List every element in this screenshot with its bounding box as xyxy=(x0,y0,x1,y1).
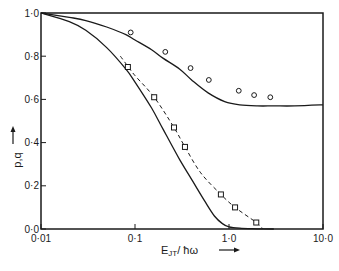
square-marker-icon xyxy=(152,95,157,100)
x-tick-label: 10·0 xyxy=(313,233,333,244)
y-axis-ticks: 0·00·20·40·60·81·0 xyxy=(25,8,46,235)
circle-marker-icon xyxy=(252,93,257,98)
markers-layer xyxy=(125,30,272,225)
square-marker-icon xyxy=(182,144,187,149)
x-tick-label: 1·0 xyxy=(222,233,237,244)
series-layer xyxy=(41,13,323,229)
circle-marker-icon xyxy=(268,95,273,100)
circle-marker-icon xyxy=(236,88,241,93)
x-tick-label: 0·1 xyxy=(128,233,143,244)
square-marker-icon xyxy=(233,205,238,210)
y-axis-arrow-icon xyxy=(11,126,16,144)
x-axis-ticks: 0·010·11·010·0 xyxy=(31,224,333,244)
x-tick-label: 0·01 xyxy=(31,233,51,244)
x-axis-label-rest: / ħω xyxy=(177,244,198,256)
y-axis-label: p,q xyxy=(11,152,23,167)
x-axis-label-main: E xyxy=(161,244,168,256)
square-marker-icon xyxy=(254,220,259,225)
plot-frame xyxy=(41,13,323,229)
solid-curve xyxy=(41,13,323,106)
y-tick-label: 0·4 xyxy=(25,137,40,148)
solid-curve xyxy=(41,13,274,229)
svg-text:EJT/ ħω: EJT/ ħω xyxy=(161,244,198,258)
y-tick-label: 1·0 xyxy=(25,8,40,19)
x-axis-label-sub: JT xyxy=(168,249,177,258)
square-marker-icon xyxy=(125,65,130,70)
x-axis-title: EJT/ ħω xyxy=(161,244,198,258)
square-marker-icon xyxy=(218,192,223,197)
circle-marker-icon xyxy=(188,66,193,71)
dashed-curve xyxy=(120,56,263,229)
circle-marker-icon xyxy=(163,49,168,54)
y-axis-title: p,q xyxy=(11,152,23,167)
y-tick-label: 0·6 xyxy=(25,94,40,105)
plot-border xyxy=(41,13,323,229)
circle-marker-icon xyxy=(128,30,133,35)
y-tick-label: 0·2 xyxy=(25,180,40,191)
circle-marker-icon xyxy=(206,78,211,83)
y-tick-label: 0·8 xyxy=(25,51,40,62)
x-axis-arrow-icon xyxy=(219,248,240,253)
chart-figure: 0·00·20·40·60·81·0 0·010·11·010·0 p,q EJ… xyxy=(0,0,339,271)
square-marker-icon xyxy=(172,125,177,130)
